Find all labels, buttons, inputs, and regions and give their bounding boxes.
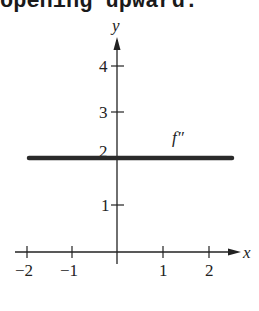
y-axis-label: y (110, 16, 120, 35)
x-tick-label-2: 2 (205, 261, 214, 280)
x-tick-label--1: −1 (60, 261, 78, 280)
x-tick-label--2: −2 (15, 261, 33, 280)
chart: y 4 3 2 1 x −2 −1 1 2 f″ (0, 0, 259, 311)
f-double-prime-label: f″ (172, 128, 185, 147)
y-tick-label-1: 1 (101, 196, 110, 215)
x-axis-label: x (242, 243, 251, 262)
x-axis-arrow-icon (228, 249, 241, 256)
y-axis-arrow-icon (114, 37, 121, 50)
y-tick-label-3: 3 (99, 103, 108, 122)
x-tick-label-1: 1 (159, 261, 168, 280)
y-tick-label-4: 4 (99, 57, 108, 76)
